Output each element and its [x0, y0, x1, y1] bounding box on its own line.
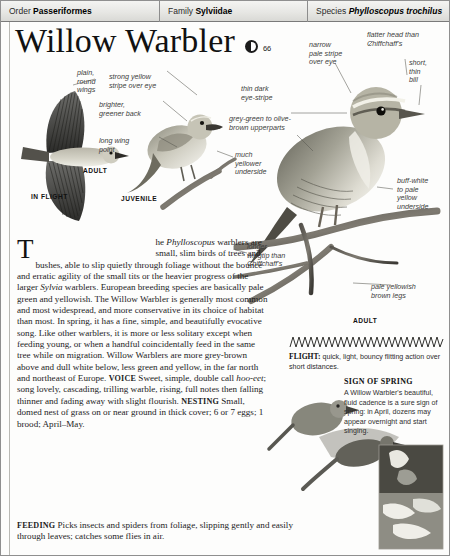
- plate-label-adult-perched: ADULT: [353, 317, 377, 324]
- callout-strong-yellow-stripe: strong yellow stripe over eye: [109, 73, 156, 90]
- nesting-heading: NESTING: [181, 397, 219, 406]
- callout-long-wing-point: long wing point: [99, 137, 129, 154]
- callout-pale-yellowish-legs: pale yellowish brown legs: [371, 283, 416, 300]
- sign-of-spring-title: SIGN OF SPRING: [344, 377, 444, 386]
- drop-cap: T: [17, 237, 36, 260]
- flight-description: FLIGHT: quick, light, bouncy flitting ac…: [289, 352, 444, 372]
- feeding-text: Picks insects and spiders from foliage, …: [17, 520, 293, 541]
- sign-of-spring-panel: SIGN OF SPRING A Willow Warbler's beauti…: [344, 377, 444, 437]
- field-guide-page: Order Passeriformes Family Sylviidae Spe…: [0, 0, 450, 556]
- header-family-label: Family: [168, 6, 193, 16]
- juvenile-bird-art: [127, 115, 235, 208]
- feeding-heading: FEEDING: [17, 521, 55, 530]
- voice-text-a: Sweet, simple, double call: [136, 373, 236, 383]
- header-species-label: Species: [316, 6, 346, 16]
- callout-plain-round-wings: plain, round wings: [77, 69, 95, 95]
- header-order-cell: Order Passeriformes: [1, 1, 159, 22]
- callout-buff-white-underside: buff-white to pale yellow underside: [397, 177, 429, 211]
- voice-call-transcription: hoo-eet: [236, 373, 263, 383]
- callout-much-yellower-underside: much yellower underside: [235, 151, 267, 177]
- callout-brighter-greener-back: brighter, greener back: [99, 101, 141, 118]
- sign-of-spring-text: A Willow Warbler's beautiful, fluid cade…: [344, 389, 444, 437]
- distribution-map: [379, 445, 443, 549]
- header-species-value: Phylloscopus trochilus: [349, 6, 443, 16]
- plate-label-adult-wing: ADULT: [83, 167, 107, 174]
- zigzag-flight-line-icon: [289, 335, 444, 349]
- feeding-section: FEEDING Picks insects and spiders from f…: [17, 520, 317, 543]
- genus-sylvia: Sylvia: [40, 282, 62, 292]
- plate-label-in-flight: IN FLIGHT: [31, 193, 68, 200]
- header-order-value: Passeriformes: [33, 6, 92, 16]
- speaker-icon: [245, 40, 258, 53]
- species-title-row: Willow Warbler 66: [15, 21, 271, 61]
- page-title: Willow Warbler: [15, 21, 235, 61]
- intro-lead: he: [156, 237, 167, 247]
- callout-flatter-head: flatter head than Chiffchaff's: [367, 31, 419, 48]
- genus-phylloscopus: Phylloscopus: [166, 237, 215, 247]
- taxonomy-header: Order Passeriformes Family Sylviidae Spe…: [1, 1, 450, 22]
- callout-short-thin-bill: short, thin bill: [409, 59, 427, 85]
- header-order-label: Order: [9, 6, 31, 16]
- voice-heading: VOICE: [109, 374, 136, 383]
- header-species-cell: Species Phylloscopus trochilus: [307, 1, 450, 22]
- flight-heading: FLIGHT:: [289, 352, 321, 361]
- paragraph-2: warblers. European breeding species are …: [17, 282, 267, 383]
- callout-narrow-pale-stripe: narrow pale stripe over eye: [309, 41, 342, 67]
- left-margin-rule: [9, 22, 10, 556]
- species-description-text: T he Phylloscopus warblers are small, sl…: [17, 237, 269, 430]
- callout-grey-green-upperparts: grey-green to olive- brown upperparts: [229, 115, 291, 132]
- header-family-cell: Family Sylviidae: [159, 1, 307, 22]
- audio-track-number: 66: [263, 44, 271, 53]
- flight-pattern-panel: FLIGHT: quick, light, bouncy flitting ac…: [289, 335, 444, 372]
- plate-label-juvenile: JUVENILE: [121, 195, 157, 202]
- callout-thin-dark-eyestripe: thin dark eye-stripe: [241, 85, 273, 102]
- header-family-value: Sylviidae: [195, 6, 232, 16]
